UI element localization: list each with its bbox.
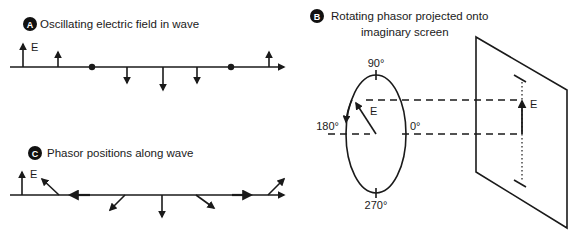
phasor-45	[42, 179, 59, 195]
screen-max-mark	[514, 75, 526, 82]
phasor-315	[268, 179, 284, 195]
panel-a-e-label: E	[31, 41, 38, 53]
phasor-diagram: A Oscillating electric field in wave E C…	[0, 0, 580, 238]
panel-c-e-label: E	[30, 168, 37, 180]
node-dot	[89, 64, 95, 70]
panel-b-title-line1: Rotating phasor projected onto	[331, 10, 488, 22]
angle-0-label: 0°	[410, 120, 421, 132]
phasor-135	[110, 195, 125, 210]
screen-min-mark	[514, 180, 526, 187]
panel-c: C Phasor positions along wave E	[10, 146, 284, 217]
badge-b-label: B	[314, 12, 321, 22]
angle-270-label: 270°	[365, 199, 388, 211]
node-dot	[228, 64, 234, 70]
panel-a-title: Oscillating electric field in wave	[40, 18, 199, 30]
badge-c-label: C	[32, 149, 39, 159]
panel-b-title-line2: imaginary screen	[361, 26, 449, 38]
screen-e-label: E	[530, 98, 537, 110]
angle-90-label: 90°	[368, 57, 385, 69]
phasor-e-label: E	[370, 105, 377, 117]
phasor-225	[196, 195, 214, 208]
angle-180-label: 180°	[316, 120, 339, 132]
badge-a-label: A	[27, 20, 34, 30]
panel-c-title: Phasor positions along wave	[47, 147, 193, 159]
panel-b: B Rotating phasor projected onto imagina…	[310, 9, 567, 228]
panel-a: A Oscillating electric field in wave E	[10, 17, 284, 90]
